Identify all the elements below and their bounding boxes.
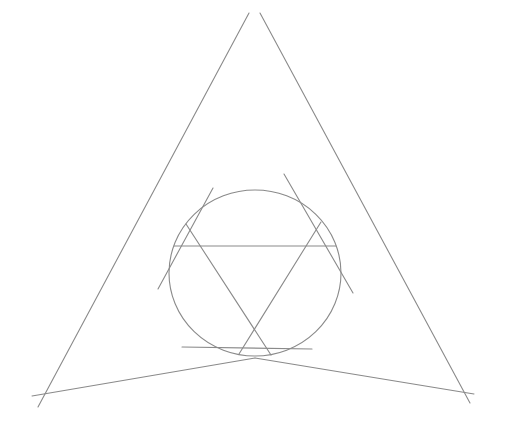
geometry-diagram [0, 0, 513, 433]
background [0, 0, 513, 433]
